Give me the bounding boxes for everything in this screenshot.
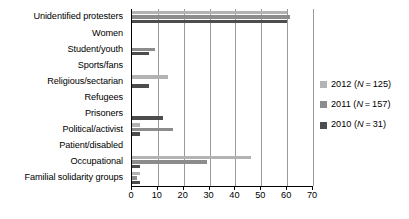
bar-2010 <box>132 165 140 168</box>
bar-group <box>132 73 313 89</box>
plot-area <box>131 9 313 186</box>
bar-group <box>132 57 313 73</box>
category-axis-labels: Unidentified protestersWomenStudent/yout… <box>0 9 127 186</box>
bar-2010 <box>132 84 149 87</box>
bar-2010 <box>132 52 149 55</box>
bar-group <box>132 122 313 138</box>
category-label: Occupational <box>0 154 127 170</box>
bar-2011 <box>132 176 137 179</box>
bar-2010 <box>132 116 163 119</box>
bar-group <box>132 138 313 154</box>
category-label: Student/youth <box>0 41 127 57</box>
x-axis-tick-label: 0 <box>128 191 133 200</box>
x-axis-tick-label: 20 <box>178 191 188 200</box>
bar-group <box>132 106 313 122</box>
bar-group <box>132 89 313 105</box>
legend-label: 2012 (N = 125) <box>331 80 391 89</box>
bar-2011 <box>132 128 173 131</box>
category-label: Familial solidarity groups <box>0 170 127 186</box>
category-label: Patient/disabled <box>0 138 127 154</box>
x-axis-tick-label: 10 <box>152 191 162 200</box>
category-label: Sports/fans <box>0 57 127 73</box>
bar-2012 <box>132 75 168 78</box>
legend-swatch-icon <box>320 81 327 88</box>
bar-2012 <box>132 156 251 159</box>
legend-item-2011[interactable]: 2011 (N = 157) <box>320 100 391 109</box>
category-label: Prisoners <box>0 106 127 122</box>
category-label: Political/activist <box>0 122 127 138</box>
bar-group <box>132 170 313 186</box>
category-label: Unidentified protesters <box>0 9 127 25</box>
legend-label: 2011 (N = 157) <box>331 100 390 109</box>
x-axis-tick-label: 40 <box>229 191 239 200</box>
category-label: Religious/sectarian <box>0 73 127 89</box>
x-axis-tick-label: 50 <box>255 191 265 200</box>
bar-2010 <box>132 132 140 135</box>
x-axis-tick-label: 60 <box>281 191 291 200</box>
category-label: Women <box>0 25 127 41</box>
x-axis-line <box>131 186 312 187</box>
bar-group <box>132 41 313 57</box>
bar-2011 <box>132 15 290 18</box>
legend-label: 2010 (N = 31) <box>331 120 386 129</box>
bar-group <box>132 25 313 41</box>
chart-legend: 2012 (N = 125)2011 (N = 157)2010 (N = 31… <box>320 80 391 130</box>
x-axis-tick-label: 30 <box>203 191 213 200</box>
bar-2010 <box>132 20 287 23</box>
bar-2011 <box>132 48 155 51</box>
bar-2012 <box>132 123 140 126</box>
legend-swatch-icon <box>320 122 327 129</box>
legend-item-2012[interactable]: 2012 (N = 125) <box>320 80 391 89</box>
bar-group <box>132 154 313 170</box>
x-axis-tick-label: 70 <box>307 191 317 200</box>
legend-swatch-icon <box>320 101 327 108</box>
gridline <box>313 9 314 186</box>
bar-2010 <box>132 181 140 184</box>
bar-group <box>132 9 313 25</box>
bar-2011 <box>132 160 207 163</box>
bar-2012 <box>132 172 140 175</box>
bar-2012 <box>132 11 287 14</box>
bar-chart: Unidentified protestersWomenStudent/yout… <box>0 0 409 219</box>
category-label: Refugees <box>0 89 127 105</box>
legend-item-2010[interactable]: 2010 (N = 31) <box>320 120 391 129</box>
